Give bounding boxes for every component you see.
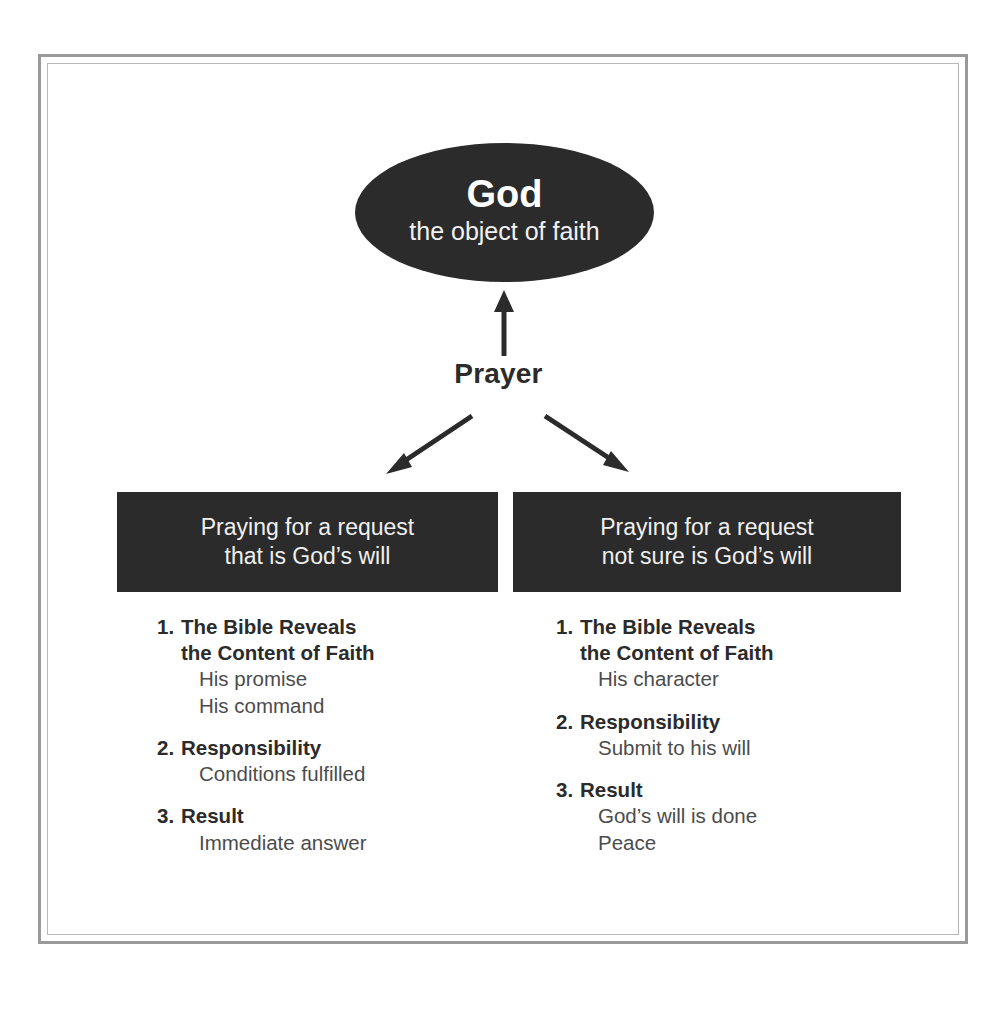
item-heading: 3. Result [157,803,498,829]
item-title: Responsibility [580,709,720,735]
item-heading: 2. Responsibility [157,735,498,761]
list-item: 2. Responsibility Submit to his will [556,709,901,761]
god-node-subtitle: the object of faith [409,216,599,246]
branch-right-header-line1: Praying for a request [600,514,814,540]
item-subitem: Submit to his will [598,735,901,761]
list-item: 1. The Bible Reveals the Content of Fait… [157,614,498,719]
branch-left-header-line1: Praying for a request [201,514,415,540]
branch-left-header-text: Praying for a request that is God’s will [187,513,429,572]
item-title: Result [181,803,244,829]
item-number: 1. [157,614,177,666]
item-heading: 1. The Bible Reveals the Content of Fait… [556,614,901,666]
item-title: The Bible Reveals the Content of Faith [181,614,375,666]
item-title: The Bible Reveals the Content of Faith [580,614,774,666]
god-ellipse-node: God the object of faith [355,143,654,282]
branch-right-header: Praying for a request not sure is God’s … [513,492,901,592]
prayer-to-god-arrow [494,290,514,356]
branch-right-header-line2: not sure is God’s will [602,543,813,569]
prayer-to-left-branch-arrow [386,416,472,474]
item-subitem: His character [598,666,901,692]
list-item: 1. The Bible Reveals the Content of Fait… [556,614,901,693]
item-subitem: Conditions fulfilled [199,761,498,787]
item-subitem: Peace [598,830,901,856]
list-item: 3. Result Immediate answer [157,803,498,855]
item-subitem: His command [199,693,498,719]
item-heading: 2. Responsibility [556,709,901,735]
item-heading: 1. The Bible Reveals the Content of Fait… [157,614,498,666]
branch-left-header: Praying for a request that is God’s will [117,492,498,592]
item-number: 3. [157,803,177,829]
prayer-connector-label: Prayer [0,358,997,390]
item-heading: 3. Result [556,777,901,803]
branch-left: Praying for a request that is God’s will… [117,492,498,856]
item-number: 2. [157,735,177,761]
item-number: 1. [556,614,576,666]
branch-right-body: 1. The Bible Reveals the Content of Fait… [513,592,901,856]
branch-right: Praying for a request not sure is God’s … [513,492,901,856]
diagram-canvas: God the object of faith Prayer Praying f… [0,0,997,1011]
item-number: 3. [556,777,576,803]
item-subitem: Immediate answer [199,830,498,856]
item-number: 2. [556,709,576,735]
item-subitem: His promise [199,666,498,692]
item-subitem: God’s will is done [598,803,901,829]
list-item: 3. Result God’s will is done Peace [556,777,901,856]
branch-left-header-line2: that is God’s will [225,543,391,569]
branch-left-body: 1. The Bible Reveals the Content of Fait… [117,592,498,856]
branch-right-header-text: Praying for a request not sure is God’s … [586,513,828,572]
prayer-to-right-branch-arrow [545,416,629,472]
list-item: 2. Responsibility Conditions fulfilled [157,735,498,787]
item-title: Responsibility [181,735,321,761]
item-title: Result [580,777,643,803]
god-node-title: God [467,175,543,215]
